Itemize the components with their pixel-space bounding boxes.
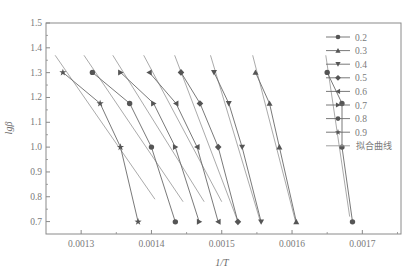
y-tick-label: 0.8: [30, 192, 42, 202]
data-point-triangle-down: [226, 101, 232, 106]
fit-lines: [55, 55, 350, 221]
data-point-circle: [90, 70, 95, 75]
data-point-diamond: [215, 144, 222, 151]
x-axis: 0.00130.00140.00150.00160.0017: [68, 230, 397, 249]
legend-label: 0.5: [355, 73, 367, 83]
legend-label: 0.9: [355, 128, 367, 138]
legend-label: 0.6: [355, 87, 367, 97]
data-point-triangle-down: [239, 145, 245, 150]
data-point-star: [135, 218, 142, 225]
series-line: [92, 72, 175, 221]
legend: 0.20.30.40.50.60.70.80.9拟合曲线: [326, 33, 392, 152]
legend-triangle-left-icon: [335, 89, 340, 94]
data-point-triangle-up: [276, 144, 282, 149]
data-point-star: [97, 100, 104, 107]
data-point-diamond: [178, 69, 185, 76]
y-axis-title: lgβ: [3, 122, 14, 135]
series-line: [63, 72, 138, 221]
legend-item: 0.2: [326, 33, 367, 43]
data-point-circle: [339, 144, 344, 149]
y-axis: 0.70.80.91.01.11.21.31.41.5: [30, 18, 50, 227]
legend-label: 0.2: [355, 33, 367, 43]
x-axis-title: 1/T: [215, 257, 230, 268]
legend-item: 0.4: [326, 60, 367, 70]
x-tick-label: 0.0013: [68, 239, 94, 249]
fit-line-0.7: [113, 55, 204, 201]
series-line: [149, 72, 218, 221]
data-point-triangle-up: [267, 100, 273, 105]
data-point-triangle-right: [197, 219, 202, 225]
data-point-triangle-left: [194, 144, 199, 150]
x-tick-label: 0.0015: [209, 239, 235, 249]
y-tick-label: 1.0: [30, 142, 42, 152]
legend-label: 拟合曲线: [356, 140, 392, 151]
x-tick-label: 0.0016: [279, 239, 305, 249]
data-point-triangle-right: [151, 100, 156, 106]
data-point-diamond: [197, 100, 204, 107]
data-point-circle: [324, 70, 329, 75]
series-line: [121, 72, 200, 221]
fit-line-0.5: [175, 55, 238, 221]
data-series: [59, 69, 355, 225]
y-tick-label: 1.2: [30, 92, 42, 102]
legend-circle-icon: [336, 116, 341, 121]
series-0.9: [59, 69, 141, 225]
legend-diamond-icon: [335, 75, 341, 81]
chart: 0.70.80.91.01.11.21.31.41.5 0.00130.0014…: [0, 0, 418, 275]
legend-label: 0.8: [355, 114, 367, 124]
data-point-triangle-up: [293, 219, 299, 224]
legend-item: 0.8: [326, 114, 367, 124]
data-point-circle: [149, 144, 154, 149]
data-point-diamond: [235, 219, 242, 226]
data-point-triangle-down: [258, 219, 264, 224]
data-point-circle: [173, 219, 178, 224]
y-tick-label: 1.1: [30, 117, 42, 127]
series-0.8: [90, 70, 178, 225]
series-0.7: [118, 69, 202, 224]
legend-label: 0.3: [355, 46, 367, 56]
x-tick-label: 0.0014: [138, 239, 164, 249]
y-tick-label: 1.3: [30, 68, 42, 78]
legend-label: 0.4: [355, 60, 367, 70]
legend-star-icon: [335, 129, 341, 135]
y-tick-label: 1.5: [30, 18, 42, 28]
y-tick-label: 0.9: [30, 167, 42, 177]
legend-item: 0.7: [326, 101, 367, 111]
legend-item: 0.9: [326, 128, 367, 138]
legend-item: 拟合曲线: [326, 140, 392, 151]
y-tick-label: 1.4: [30, 43, 42, 53]
data-point-circle: [350, 219, 355, 224]
y-tick-label: 0.7: [30, 217, 42, 227]
data-point-triangle-left: [146, 69, 151, 75]
data-point-triangle-up: [252, 69, 258, 74]
data-point-circle: [127, 101, 132, 106]
legend-item: 0.3: [326, 46, 367, 56]
x-tick-label: 0.0017: [349, 239, 375, 249]
legend-label: 0.7: [355, 101, 367, 111]
fit-line-0.9: [55, 55, 155, 199]
legend-circle-icon: [336, 35, 341, 40]
